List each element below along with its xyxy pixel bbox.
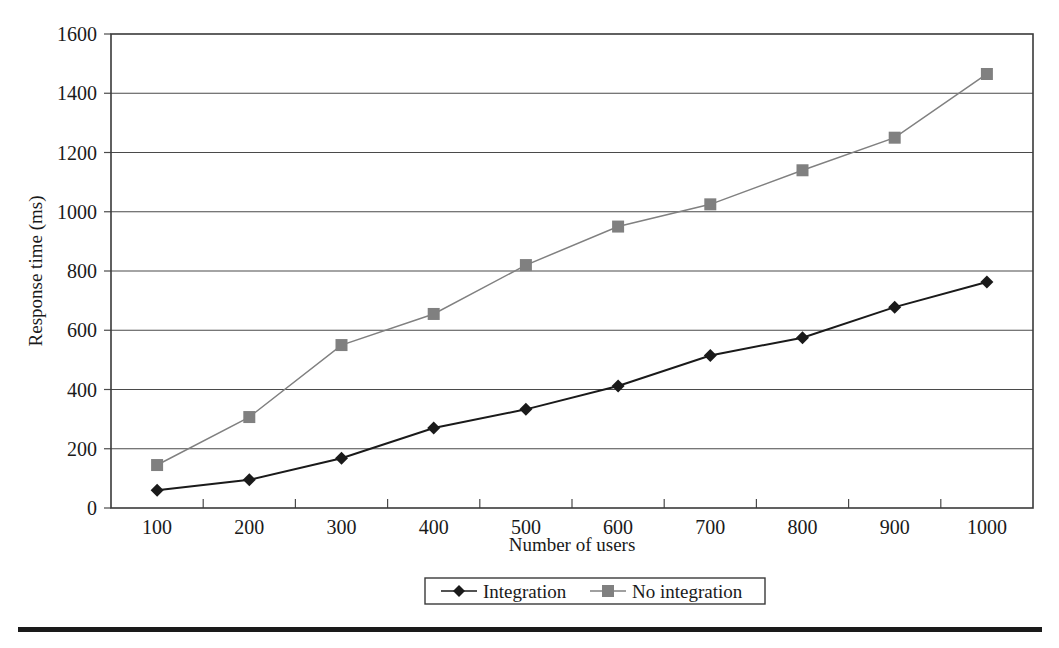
square-icon: [602, 585, 614, 597]
data-point-marker: [428, 308, 440, 320]
y-tick-label: 1600: [57, 23, 97, 45]
chart-figure: 02004006008001000120014001600 1002003004…: [0, 0, 1059, 648]
y-tick-label: 1200: [57, 142, 97, 164]
x-tick-label: 800: [788, 516, 818, 538]
y-tick-label: 600: [67, 319, 97, 341]
x-tick-label: 400: [419, 516, 449, 538]
legend: Integration No integration: [425, 578, 765, 604]
y-tick-label: 400: [67, 379, 97, 401]
x-tick-label: 200: [234, 516, 264, 538]
data-point-marker: [520, 259, 532, 271]
data-point-marker: [889, 132, 901, 144]
data-point-marker: [151, 459, 163, 471]
y-tick-label: 200: [67, 438, 97, 460]
y-tick-label: 1400: [57, 82, 97, 104]
data-point-marker: [336, 339, 348, 351]
y-axis-ticks-group: 02004006008001000120014001600: [57, 23, 111, 519]
bottom-rule: [18, 627, 1042, 632]
y-tick-label: 800: [67, 260, 97, 282]
legend-label-integration: Integration: [483, 581, 567, 602]
data-point-marker: [797, 164, 809, 176]
data-point-marker: [981, 68, 993, 80]
x-tick-label: 700: [695, 516, 725, 538]
response-time-line-chart: 02004006008001000120014001600 1002003004…: [0, 0, 1059, 648]
x-axis-label: Number of users: [509, 534, 636, 555]
data-point-marker: [612, 221, 624, 233]
data-point-marker: [704, 198, 716, 210]
x-tick-label: 100: [142, 516, 172, 538]
legend-label-no-integration: No integration: [632, 581, 743, 602]
x-tick-label: 900: [880, 516, 910, 538]
x-tick-label: 1000: [967, 516, 1007, 538]
data-point-marker: [243, 411, 255, 423]
y-tick-label: 0: [87, 497, 97, 519]
x-tick-label: 300: [327, 516, 357, 538]
y-tick-label: 1000: [57, 201, 97, 223]
y-axis-label: Response time (ms): [25, 196, 47, 347]
